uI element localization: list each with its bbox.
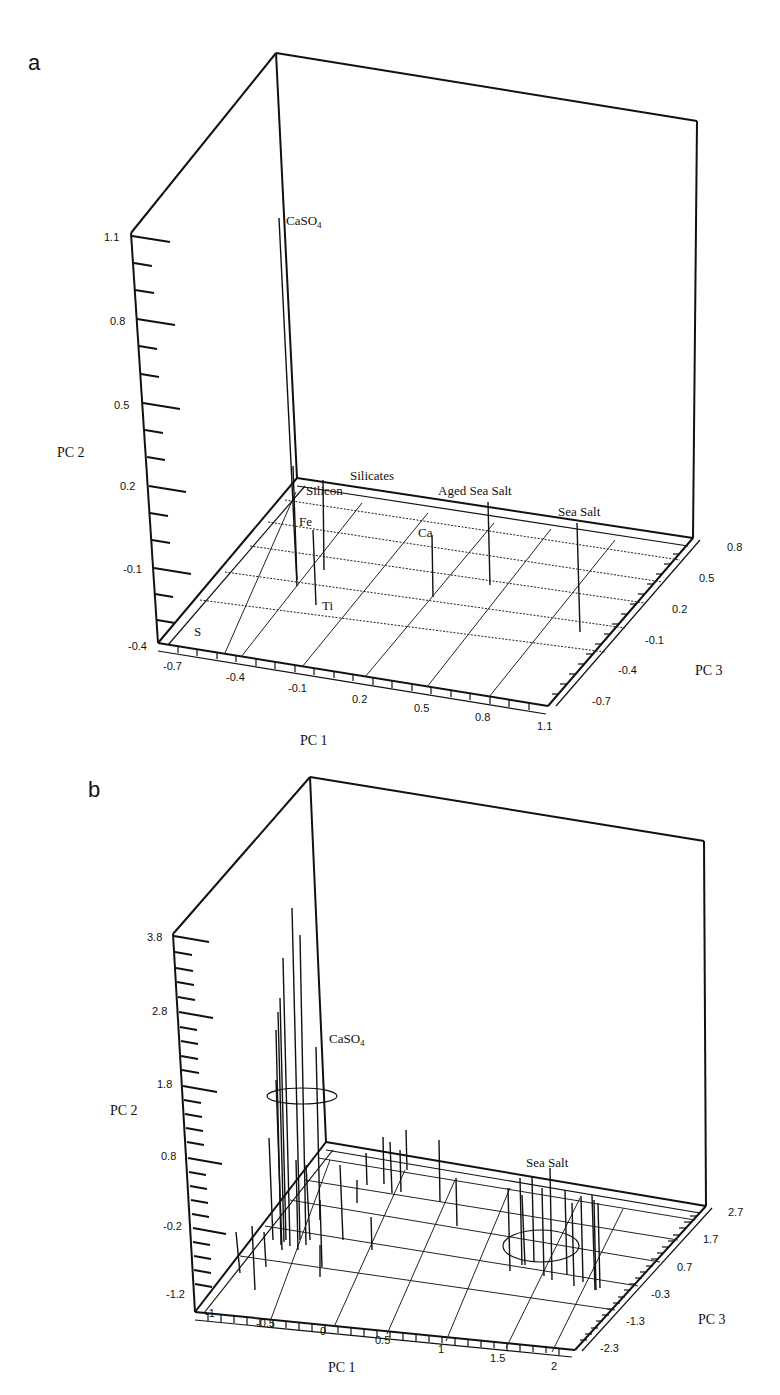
svg-text:0.5: 0.5 [414,702,429,714]
panel-a-pc1-tick-labels: -0.7 -0.4 -0.1 0.2 0.5 0.8 1.1 [163,660,552,732]
panel-b-pc2-tick-labels: 3.8 2.8 1.8 0.8 -0.2 -1.2 [147,931,185,1300]
sea-salt-cluster-ellipse [503,1230,579,1262]
svg-text:1.5: 1.5 [490,1352,505,1364]
annot-caso4: CaSO4 [329,1031,365,1048]
svg-text:-1: -1 [205,1307,215,1319]
svg-text:0.8: 0.8 [727,541,742,553]
svg-text:-1.3: -1.3 [626,1315,645,1327]
annot-silicon: Silicon [306,483,343,498]
annot-caso4: CaSO4 [286,213,322,230]
panel-a-floor-grid [200,492,680,697]
panel-b-mid-stems [320,1130,457,1267]
svg-text:0.5: 0.5 [375,1334,390,1346]
annot-aged-sea-salt: Aged Sea Salt [438,483,512,498]
svg-text:1.1: 1.1 [104,231,119,243]
svg-text:-0.1: -0.1 [645,634,664,646]
svg-text:0.2: 0.2 [352,693,367,705]
figure: a [0,0,780,1395]
svg-text:0.8: 0.8 [161,1150,176,1162]
panel-b-pc2-title: PC 2 [110,1103,138,1118]
svg-text:0.8: 0.8 [475,711,490,723]
annot-s: S [194,624,201,639]
panel-a-pc2-tick-labels: 1.1 0.8 0.5 0.2 -0.1 -0.4 [104,231,147,652]
svg-text:0.5: 0.5 [114,399,129,411]
svg-text:-0.7: -0.7 [592,695,611,707]
annot-sea-salt: Sea Salt [558,504,601,519]
panel-b-label: b [88,777,100,802]
svg-text:-0.3: -0.3 [651,1288,670,1300]
svg-text:1.8: 1.8 [157,1078,172,1090]
svg-text:2: 2 [551,1360,557,1372]
svg-text:-2.3: -2.3 [600,1342,619,1354]
svg-text:3.8: 3.8 [147,931,162,943]
svg-text:0.2: 0.2 [672,603,687,615]
panel-b-pc3-title: PC 3 [698,1312,726,1327]
annot-silicates: Silicates [350,468,394,483]
panel-a-box [131,53,700,714]
svg-text:2.8: 2.8 [152,1005,167,1017]
svg-text:-0.2: -0.2 [163,1220,182,1232]
panel-a-points: CaSO4 Silicon Silicates Fe Ti Ca Aged Se… [194,213,601,639]
panel-b-pc1-title: PC 1 [328,1360,356,1375]
panel-a-label: a [28,50,41,75]
svg-text:0.8: 0.8 [110,315,125,327]
svg-text:-0.1: -0.1 [288,682,307,694]
svg-text:-0.7: -0.7 [163,660,182,672]
panel-b-pc1-tick-labels: -1 -0.5 0 0.5 1 1.5 2 [205,1307,557,1372]
svg-text:0.7: 0.7 [677,1261,692,1273]
svg-text:1: 1 [438,1343,444,1355]
annot-ti: Ti [322,598,333,613]
svg-text:-0.1: -0.1 [123,563,142,575]
panel-a: a [28,50,742,748]
annot-sea-salt: Sea Salt [526,1155,569,1170]
svg-text:0.5: 0.5 [699,572,714,584]
svg-text:2.7: 2.7 [728,1206,743,1218]
svg-text:-0.4: -0.4 [128,640,147,652]
panel-b: b [88,777,743,1375]
panel-b-pc3-tick-labels: 2.7 1.7 0.7 -0.3 -1.3 -2.3 [600,1206,743,1354]
svg-text:-1.2: -1.2 [166,1288,185,1300]
annot-ca: Ca [418,525,433,540]
svg-text:-0.5: -0.5 [256,1317,275,1329]
svg-text:1.7: 1.7 [703,1233,718,1245]
panel-b-pc2-ticks [174,936,226,1287]
panel-a-pc3-title: PC 3 [695,663,723,678]
svg-text:-0.4: -0.4 [226,671,245,683]
annot-fe: Fe [299,514,312,529]
svg-text:0: 0 [320,1325,326,1337]
panel-a-pc1-title: PC 1 [300,733,328,748]
panel-a-pc2-title: PC 2 [57,445,85,460]
svg-text:0.2: 0.2 [120,480,135,492]
svg-text:1.1: 1.1 [537,720,552,732]
svg-text:-0.4: -0.4 [618,664,637,676]
